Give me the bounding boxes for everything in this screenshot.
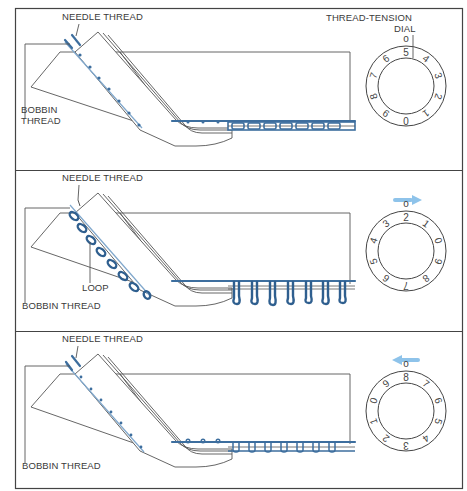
bobbin-thread-label: BOBBIN THREAD <box>22 300 101 311</box>
dial-number: 9 <box>432 257 444 266</box>
needle-thread-label: NEEDLE THREAD <box>62 172 143 183</box>
loop-label: LOOP <box>82 282 109 293</box>
bobbin-thread-label-2: THREAD <box>21 115 61 126</box>
dial-number: 4 <box>368 236 380 245</box>
needle-thread-label: NEEDLE THREAD <box>62 333 143 344</box>
dial-number: 5 <box>432 417 444 426</box>
dial-number: 7 <box>403 280 409 291</box>
dial-label-line1: THREAD-TENSION <box>326 12 412 23</box>
tension-dial-1[interactable]: o5432109876 <box>366 33 446 126</box>
dial-number: 0 <box>432 236 444 245</box>
dial-top-mark: o <box>403 198 409 209</box>
dial-inner-ring <box>378 383 434 439</box>
dial-number: 3 <box>403 440 409 451</box>
tension-dial-2[interactable]: o2109876543 <box>366 198 446 291</box>
dial-number: 2 <box>403 212 409 223</box>
dial-number: 5 <box>403 47 409 58</box>
dial-number: 0 <box>368 396 380 405</box>
dial-number: 7 <box>368 71 380 80</box>
dial-number: 8 <box>403 372 409 383</box>
panel-balanced: NEEDLE THREAD BOBBIN THREAD THREAD-TENSI… <box>21 11 446 146</box>
dial-number: 3 <box>432 71 444 80</box>
tension-diagram: NEEDLE THREAD BOBBIN THREAD THREAD-TENSI… <box>0 0 467 491</box>
dial-inner-ring <box>378 58 434 114</box>
dial-number: 0 <box>403 115 409 126</box>
dial-inner-ring <box>378 223 434 279</box>
dial-number: 8 <box>367 92 379 101</box>
panel-too-tight: NEEDLE THREAD BOBBIN THREAD o8765432109 <box>22 333 446 471</box>
dial-number: 2 <box>432 92 444 101</box>
tension-dial-3[interactable]: o8765432109 <box>366 358 446 451</box>
dial-top-mark: o <box>403 358 409 369</box>
dial-number: 6 <box>432 396 444 405</box>
dial-number: 5 <box>367 257 379 266</box>
dial-top-mark: o <box>403 33 409 44</box>
needle-thread-label: NEEDLE THREAD <box>62 11 143 22</box>
panel-too-loose: NEEDLE THREAD BOBBIN THREAD LOOP o210987… <box>22 172 446 311</box>
bobbin-thread-label: BOBBIN THREAD <box>22 460 101 471</box>
dial-number: 1 <box>367 417 379 426</box>
bobbin-thread-label: BOBBIN <box>21 104 58 115</box>
